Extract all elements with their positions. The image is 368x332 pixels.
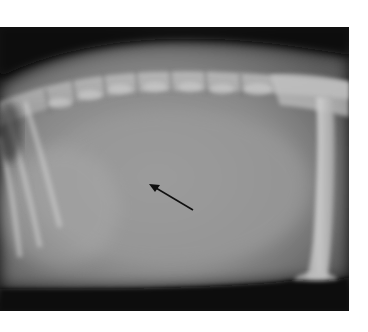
radiograph-image: [0, 27, 349, 311]
radiograph-drawing: [0, 27, 349, 311]
